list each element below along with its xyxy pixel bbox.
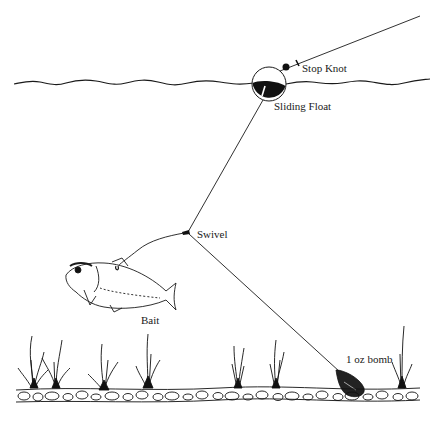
bomb-label: 1 oz bomb xyxy=(346,354,392,365)
sliding-float-label: Sliding Float xyxy=(274,101,331,112)
bait-fish-icon xyxy=(66,258,176,312)
stop-knot-mark xyxy=(296,60,299,66)
water-surface-line xyxy=(14,79,430,85)
swivel-label: Swivel xyxy=(197,229,228,240)
bait-label: Bait xyxy=(141,315,159,326)
main-line xyxy=(280,16,420,71)
stop-knot-bead xyxy=(283,64,290,71)
float-to-swivel-line xyxy=(188,100,263,232)
fishing-rig-diagram: Stop Knot Sliding Float Swivel Bait 1 oz… xyxy=(0,0,436,426)
bomb-weight-icon xyxy=(336,370,364,397)
sliding-float-icon xyxy=(252,67,286,101)
hook-length-line xyxy=(118,233,184,266)
stop-knot-label: Stop Knot xyxy=(302,63,347,74)
swivel-to-bomb-line xyxy=(189,234,340,372)
